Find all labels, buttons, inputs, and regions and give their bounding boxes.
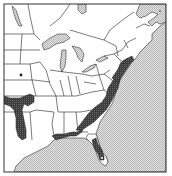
- island-mark: [159, 10, 161, 12]
- map-canvas: [0, 0, 172, 176]
- range-outlier-point: [20, 74, 23, 77]
- island-mark: [101, 157, 103, 159]
- range-map: [0, 0, 172, 176]
